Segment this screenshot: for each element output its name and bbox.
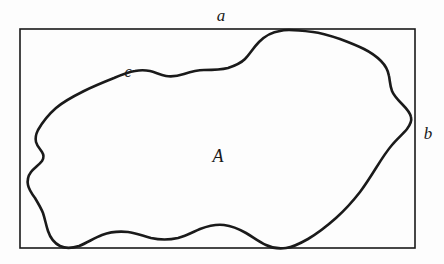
- label-c: c: [124, 64, 131, 80]
- label-b: b: [424, 125, 433, 142]
- label-a: a: [217, 7, 226, 24]
- outer-rectangle: [20, 29, 415, 248]
- irregular-boundary-curve: [28, 30, 412, 248]
- figure-canvas: [0, 0, 444, 264]
- label-area-A: A: [213, 147, 224, 165]
